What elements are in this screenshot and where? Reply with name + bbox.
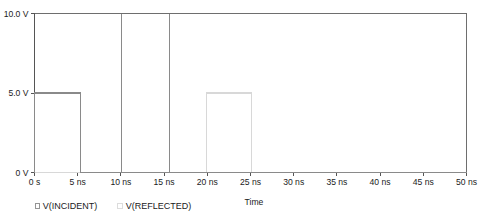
legend-item-vreflected[interactable]: V(REFLECTED) <box>118 201 191 211</box>
legend-label: V(REFLECTED) <box>126 201 192 211</box>
x-tick-label: 40 ns <box>370 177 391 187</box>
y-tick-label: 5.0 V <box>8 88 28 98</box>
x-axis-title: Time <box>245 197 264 207</box>
x-tick-label: 30 ns <box>283 177 304 187</box>
waveform-chart: 0 s5 ns10 ns15 ns20 ns25 ns30 ns35 ns40 … <box>0 0 488 223</box>
x-tick-label: 15 ns <box>154 177 175 187</box>
x-tick-label: 25 ns <box>240 177 261 187</box>
x-tick-label: 5 ns <box>70 177 86 187</box>
x-tick-label: 20 ns <box>197 177 218 187</box>
legend-marker <box>35 204 40 209</box>
x-tick-label: 35 ns <box>326 177 347 187</box>
y-tick-label: 10.0 V <box>4 9 29 19</box>
legend-label: V(INCIDENT) <box>43 201 98 211</box>
y-tick-label: 0 V <box>16 168 29 178</box>
legend-marker <box>118 204 123 209</box>
x-tick-label: 10 ns <box>110 177 131 187</box>
x-tick-label: 0 s <box>29 177 40 187</box>
chart-background <box>0 0 488 223</box>
x-tick-label: 45 ns <box>413 177 434 187</box>
x-tick-label: 50 ns <box>456 177 477 187</box>
plot-canvas: 0 s5 ns10 ns15 ns20 ns25 ns30 ns35 ns40 … <box>0 0 488 223</box>
legend-item-vincident[interactable]: V(INCIDENT) <box>35 201 97 211</box>
